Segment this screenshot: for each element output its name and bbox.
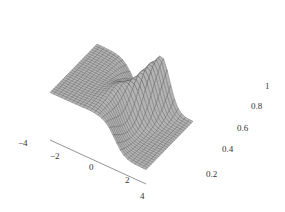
x-tick-label: −4 <box>18 139 28 148</box>
z-tick-label: 1 <box>265 82 270 91</box>
z-tick-label: 0.2 <box>206 170 217 179</box>
x-tick-label: 4 <box>140 192 145 201</box>
surface-plot <box>0 0 285 212</box>
surface-mesh <box>50 44 193 170</box>
z-tick-label: 0.6 <box>237 124 248 133</box>
x-tick-label: 2 <box>125 176 130 185</box>
z-tick-label: 0.8 <box>251 102 262 111</box>
x-tick-label: −2 <box>50 152 60 161</box>
z-tick-label: 0.4 <box>222 145 233 154</box>
x-tick-label: 0 <box>89 163 94 172</box>
